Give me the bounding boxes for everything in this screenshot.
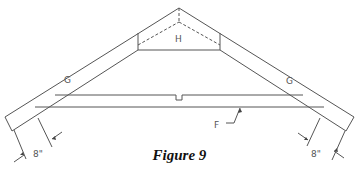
figure-caption: Figure 9 — [0, 147, 359, 164]
truss-diagram: H G G F 8" 8" — [0, 0, 359, 171]
f-leader-line — [226, 108, 240, 123]
bottom-chord-f — [35, 95, 324, 107]
gusset-label: H — [175, 34, 182, 44]
right-rafter-label: G — [286, 76, 293, 86]
left-rafter — [5, 8, 179, 131]
left-rafter-label: G — [64, 75, 71, 85]
bottom-chord-label: F — [214, 120, 219, 130]
right-rafter — [179, 8, 354, 131]
